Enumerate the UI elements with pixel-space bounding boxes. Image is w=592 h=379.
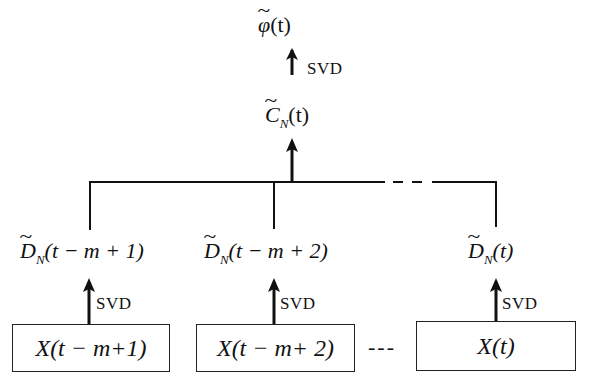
c-n-label: CN(t) [265, 104, 309, 126]
svd-label-1: SVD [96, 294, 132, 314]
svd-label-2: SVD [280, 294, 316, 314]
x-box-1: X(t − m+1) [12, 324, 170, 372]
svd-label-3: SVD [502, 294, 538, 314]
x-box-3: X(t) [416, 321, 576, 371]
phi-output-label: φ(t) [258, 14, 291, 36]
d-n-label-2: DN(t − m + 2) [204, 240, 328, 262]
d-n-label-1: DN(t − m + 1) [20, 240, 144, 262]
ellipsis-boxes: --- [368, 334, 396, 360]
x-box-2: X(t − m+ 2) [196, 324, 355, 372]
svd-label-top: SVD [307, 59, 343, 79]
d-n-label-3: DN(t) [468, 240, 513, 262]
